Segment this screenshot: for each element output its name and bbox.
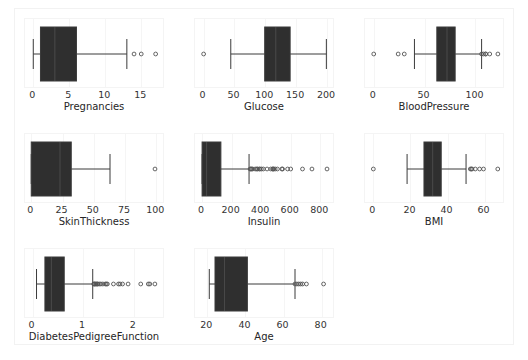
tick-label: 60 [478,204,490,216]
outlier-point [372,52,376,56]
bmi-panel: 0204060BMI [364,133,504,230]
tick-label: 150 [286,89,304,101]
diabetespedigreefunction-panel-xaxis-label: DiabetesPedigreeFunction [24,331,164,343]
skinthickness-panel-xaxis-label: SkinThickness [24,216,164,228]
tick-label: 400 [251,204,269,216]
diabetespedigreefunction-panel-axes [24,248,164,318]
outlier-point [154,52,158,56]
skinthickness-panel-boxplot [25,134,165,204]
box [40,27,76,81]
diabetespedigreefunction-panel: 012DiabetesPedigreeFunction [24,248,164,345]
bmi-panel-axes [364,133,504,203]
outlier-point [371,167,375,171]
tick-label: 0 [198,204,204,216]
tick-label: 60 [277,319,289,331]
age-panel-xaxis-label: Age [194,331,334,343]
tick-label: 100 [255,89,273,101]
age-panel: 20406080Age [194,248,334,345]
tick-label: 0 [29,319,35,331]
tick-label: 50 [227,89,239,101]
bloodpressure-panel-xaxis-label: BloodPressure [364,101,504,113]
outlier-point [305,282,309,286]
box [45,257,64,311]
tick-label: 25 [55,204,67,216]
outlier-point [496,52,500,56]
diabetespedigreefunction-panel-boxplot [25,249,165,319]
outlier-point [482,167,486,171]
outlier-point [325,167,329,171]
outlier-point [478,167,482,171]
tick-label: 80 [315,319,327,331]
insulin-panel-boxplot [195,134,335,204]
box [215,257,247,311]
bloodpressure-panel-boxplot [365,19,505,89]
outlier-point [488,52,492,56]
age-panel-boxplot [195,249,335,319]
outlier-point [310,167,314,171]
tick-label: 5 [65,89,71,101]
tick-label: 0 [200,89,206,101]
insulin-panel-xaxis-label: Insulin [194,216,334,228]
age-panel-axes [194,248,334,318]
tick-label: 600 [281,204,299,216]
outlier-point [496,167,500,171]
outlier-point [396,52,400,56]
tick-label: 20 [403,204,415,216]
skinthickness-panel-axes [24,133,164,203]
tick-label: 0 [370,89,376,101]
outlier-point [139,282,143,286]
outlier-point [265,167,269,171]
outlier-point [121,282,125,286]
tick-label: 2 [130,319,136,331]
tick-label: 200 [222,204,240,216]
pregnancies-panel-axes [24,18,164,88]
tick-label: 0 [369,204,375,216]
glucose-panel-xaxis-label: Glucose [194,101,334,113]
bmi-panel-boxplot [365,134,505,204]
outlier-point [322,282,326,286]
bloodpressure-panel: 050100BloodPressure [364,18,504,115]
tick-label: 15 [134,89,146,101]
tick-label: 100 [146,204,164,216]
outlier-point [153,167,157,171]
outlier-point [301,167,305,171]
tick-label: 10 [98,89,110,101]
tick-label: 40 [238,319,250,331]
tick-label: 800 [310,204,328,216]
outlier-point [402,52,406,56]
box [437,27,455,81]
box [202,142,221,196]
outlier-point [202,52,206,56]
outlier-point [132,52,136,56]
outlier-point [112,282,116,286]
tick-label: 40 [440,204,452,216]
tick-label: 1 [79,319,85,331]
outlier-point [153,282,157,286]
tick-label: 50 [87,204,99,216]
tick-label: 200 [317,89,335,101]
outlier-point [126,282,130,286]
box [31,142,71,196]
glucose-panel-axes [194,18,334,88]
tick-label: 50 [418,89,430,101]
boxplot-figure: 051015Pregnancies050100150200Glucose0501… [0,0,528,360]
bloodpressure-panel-axes [364,18,504,88]
tick-label: 100 [465,89,483,101]
glucose-panel-boxplot [195,19,335,89]
pregnancies-panel-boxplot [25,19,165,89]
bmi-panel-xaxis-label: BMI [364,216,504,228]
tick-label: 20 [200,319,212,331]
pregnancies-panel: 051015Pregnancies [24,18,164,115]
tick-label: 0 [29,89,35,101]
box [265,27,290,81]
outlier-point [139,52,143,56]
tick-label: 75 [118,204,130,216]
insulin-panel-axes [194,133,334,203]
insulin-panel: 0200400600800Insulin [194,133,334,230]
glucose-panel: 050100150200Glucose [194,18,334,115]
pregnancies-panel-xaxis-label: Pregnancies [24,101,164,113]
skinthickness-panel: 0255075100SkinThickness [24,133,164,230]
tick-label: 0 [27,204,33,216]
